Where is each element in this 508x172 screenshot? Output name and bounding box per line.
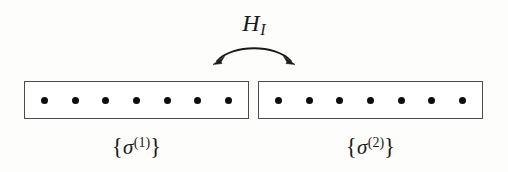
close-brace-left: }	[150, 134, 161, 159]
arrowhead-left-icon	[213, 57, 225, 65]
double-headed-curved-arrow-icon	[200, 38, 308, 72]
spin-site-dot	[41, 97, 48, 104]
spin-set-label-left: {σ(1)}	[24, 128, 249, 162]
spin-site-dot	[459, 97, 466, 104]
sigma-superscript-left: (1)	[134, 135, 150, 150]
open-brace-left: {	[112, 134, 123, 159]
spin-site-dot	[164, 97, 171, 104]
spin-site-dot	[275, 97, 282, 104]
spin-site-row-left	[25, 82, 248, 118]
spin-set-label-right: {σ(2)}	[258, 128, 483, 162]
arrow-arc-path	[217, 48, 291, 61]
close-brace-right: }	[384, 134, 395, 159]
open-brace-right: {	[346, 134, 357, 159]
spin-site-dot	[133, 97, 140, 104]
hamiltonian-subscript: I	[260, 21, 266, 38]
spin-site-dot	[367, 97, 374, 104]
hamiltonian-symbol: H	[242, 10, 260, 36]
spin-site-row-right	[259, 82, 482, 118]
sigma-symbol-right: σ	[357, 135, 367, 159]
spin-site-dot	[194, 97, 201, 104]
spin-site-dot	[306, 97, 313, 104]
spin-site-dot	[336, 97, 343, 104]
spin-chain-box-left	[24, 81, 249, 119]
spin-site-dot	[225, 97, 232, 104]
spin-site-dot	[428, 97, 435, 104]
spin-site-dot	[102, 97, 109, 104]
spin-site-dot	[398, 97, 405, 104]
arrowhead-right-icon	[284, 57, 296, 65]
spin-chain-box-right	[258, 81, 483, 119]
sigma-superscript-right: (2)	[368, 135, 384, 150]
sigma-symbol-left: σ	[123, 135, 133, 159]
spin-chain-interaction-figure: HI {σ(1)}	[0, 0, 508, 172]
spin-site-dot	[72, 97, 79, 104]
